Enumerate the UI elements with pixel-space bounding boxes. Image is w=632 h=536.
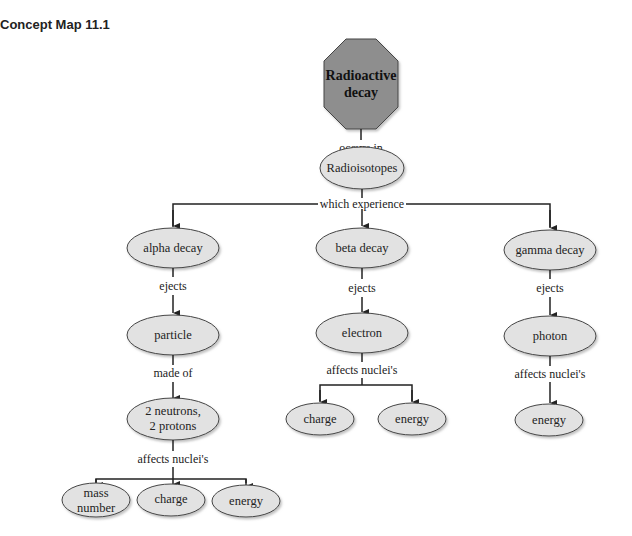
node-beta-decay: beta decay (316, 228, 408, 268)
link-gamma-affects: affects nuclei's (515, 367, 586, 381)
node-alpha-charge: charge (137, 484, 205, 516)
link-made-of: made of (154, 366, 193, 380)
concept-map-body: Radioisotopes which experience alpha dec… (0, 0, 632, 536)
node-gamma-energy-label: energy (532, 413, 567, 427)
node-electron: electron (316, 313, 408, 353)
node-neutrons-label-line1: 2 neutrons, (145, 404, 201, 418)
node-gamma-decay-label: gamma decay (515, 243, 585, 257)
node-alpha-decay-label: alpha decay (143, 241, 203, 255)
link-alpha-affects: affects nuclei's (138, 452, 209, 466)
node-alpha-charge-label: charge (154, 492, 188, 506)
node-photon: photon (504, 316, 596, 356)
node-radioisotopes-label: Radioisotopes (327, 161, 398, 175)
node-beta-energy-label: energy (395, 412, 430, 426)
node-alpha-mass-number: mass number (62, 483, 130, 517)
node-photon-label: photon (533, 329, 568, 343)
node-beta-decay-label: beta decay (335, 241, 389, 255)
node-radioisotopes: Radioisotopes (320, 147, 404, 189)
link-alpha-ejects: ejects (159, 279, 187, 293)
node-alpha-decay: alpha decay (127, 228, 219, 268)
node-particle-label: particle (154, 328, 192, 342)
node-mass-label-line2: number (77, 501, 116, 515)
node-neutrons-label-line2: 2 protons (150, 419, 197, 433)
node-electron-label: electron (342, 326, 383, 340)
link-gamma-ejects: ejects (536, 281, 564, 295)
node-mass-label-line1: mass (84, 486, 109, 500)
node-gamma-decay: gamma decay (504, 230, 596, 270)
node-particle: particle (127, 315, 219, 355)
link-beta-affects: affects nuclei's (327, 363, 398, 377)
node-alpha-energy-label: energy (229, 494, 264, 508)
node-gamma-energy: energy (515, 404, 583, 436)
node-beta-charge: charge (286, 403, 354, 435)
node-neutrons-protons: 2 neutrons, 2 protons (127, 398, 219, 440)
link-beta-ejects: ejects (348, 281, 376, 295)
node-alpha-energy: energy (212, 485, 280, 517)
node-beta-charge-label: charge (303, 412, 337, 426)
node-beta-energy: energy (378, 403, 446, 435)
link-which-experience: which experience (320, 197, 404, 211)
